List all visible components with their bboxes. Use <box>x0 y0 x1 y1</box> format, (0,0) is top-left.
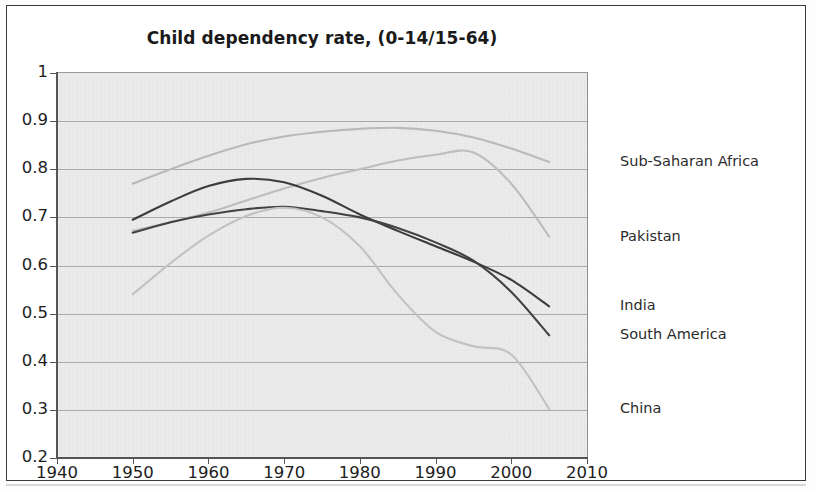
series-label-sub-saharan-africa: Sub-Saharan Africa <box>620 153 759 169</box>
series-line-south-america <box>133 179 549 307</box>
plot-right-border <box>587 72 588 459</box>
x-tick-label: 1950 <box>98 463 168 482</box>
y-tick-label: 0.8 <box>0 158 48 177</box>
y-tick-label: 0.4 <box>0 351 48 370</box>
y-tick-label: 0.5 <box>0 303 48 322</box>
y-tick-label: 1 <box>0 62 48 81</box>
x-tick-label: 1960 <box>173 463 243 482</box>
series-line-sub-saharan-africa <box>133 128 549 184</box>
y-tick-label: 0.9 <box>0 110 48 129</box>
x-tick-label: 1990 <box>401 463 471 482</box>
series-label-pakistan: Pakistan <box>620 228 681 244</box>
series-label-south-america: South America <box>620 326 727 342</box>
y-tick-label: 0.6 <box>0 255 48 274</box>
series-label-india: India <box>620 297 656 313</box>
x-tick-label: 2000 <box>476 463 546 482</box>
series-line-pakistan <box>133 151 549 237</box>
chart-title: Child dependency rate, (0-14/15-64) <box>57 28 587 48</box>
figure-bottom-edge <box>6 484 806 486</box>
chart-figure: Child dependency rate, (0-14/15-64) 0.20… <box>0 0 815 491</box>
y-tick-label: 0.7 <box>0 206 48 225</box>
x-tick-label: 1970 <box>249 463 319 482</box>
series-line-china <box>133 208 549 409</box>
series-lines <box>57 73 587 458</box>
series-line-india <box>133 207 549 336</box>
x-tick-label: 1940 <box>22 463 92 482</box>
series-label-china: China <box>620 400 661 416</box>
x-tick-label: 1980 <box>325 463 395 482</box>
x-tick-label: 2010 <box>552 463 622 482</box>
y-tick-label: 0.3 <box>0 399 48 418</box>
